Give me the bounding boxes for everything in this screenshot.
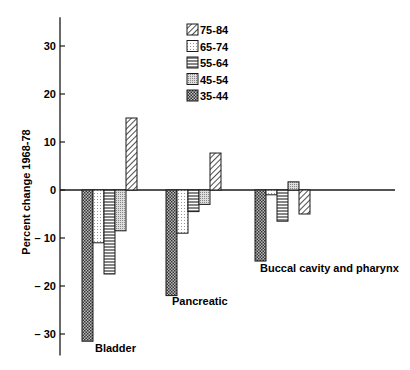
legend-label: 75-84 bbox=[200, 24, 229, 36]
bar-65-74 bbox=[177, 190, 188, 233]
bar-group-bladder: Bladder bbox=[82, 118, 137, 354]
bar-75-84 bbox=[299, 190, 310, 214]
bar-65-74 bbox=[266, 190, 277, 195]
y-tick-label: 20 bbox=[44, 88, 56, 100]
legend-swatch bbox=[187, 41, 198, 52]
legend-item-35-44: 35-44 bbox=[187, 90, 229, 102]
bar-55-64 bbox=[104, 190, 115, 274]
y-axis-label: Percent change 1968-78 bbox=[20, 129, 32, 254]
bar-chart: 3020100– 10– 20– 30Percent change 1968-7… bbox=[0, 0, 410, 370]
bar-35-44 bbox=[82, 190, 93, 341]
bar-35-44 bbox=[166, 190, 177, 296]
legend-item-65-74: 65-74 bbox=[187, 41, 229, 53]
bar-75-84 bbox=[210, 153, 221, 190]
y-tick-label: 0 bbox=[50, 184, 56, 196]
y-tick-label: 30 bbox=[44, 40, 56, 52]
bars: BladderPancreaticBuccal cavity and phary… bbox=[82, 118, 400, 354]
legend-item-75-84: 75-84 bbox=[187, 24, 229, 36]
y-tick-label: – 30 bbox=[35, 328, 56, 340]
y-tick-label: – 20 bbox=[35, 280, 56, 292]
bar-45-54 bbox=[288, 182, 299, 190]
bar-65-74 bbox=[93, 190, 104, 243]
legend-label: 55-64 bbox=[200, 57, 229, 69]
y-tick-label: – 10 bbox=[35, 232, 56, 244]
legend-label: 35-44 bbox=[200, 90, 229, 102]
legend-label: 65-74 bbox=[200, 41, 229, 53]
y-tick-label: 10 bbox=[44, 136, 56, 148]
bar-35-44 bbox=[255, 190, 266, 261]
legend-swatch bbox=[187, 90, 198, 101]
legend-swatch bbox=[187, 57, 198, 68]
bar-75-84 bbox=[126, 118, 137, 190]
legend-item-55-64: 55-64 bbox=[187, 57, 229, 69]
legend-item-45-54: 45-54 bbox=[187, 74, 229, 86]
legend-label: 45-54 bbox=[200, 74, 229, 86]
bar-45-54 bbox=[199, 190, 210, 204]
category-label: Pancreatic bbox=[172, 295, 228, 307]
bar-55-64 bbox=[188, 190, 199, 212]
category-label: Bladder bbox=[95, 342, 137, 354]
legend: 75-8465-7455-6445-5435-44 bbox=[187, 24, 229, 102]
legend-swatch bbox=[187, 74, 198, 85]
bar-group-pancreatic: Pancreatic bbox=[166, 153, 228, 307]
bar-55-64 bbox=[277, 190, 288, 221]
legend-swatch bbox=[187, 24, 198, 35]
category-label: Buccal cavity and pharynx bbox=[260, 262, 400, 274]
bar-45-54 bbox=[115, 190, 126, 231]
bar-group-buccal-cavity-and-pharynx: Buccal cavity and pharynx bbox=[255, 182, 400, 274]
